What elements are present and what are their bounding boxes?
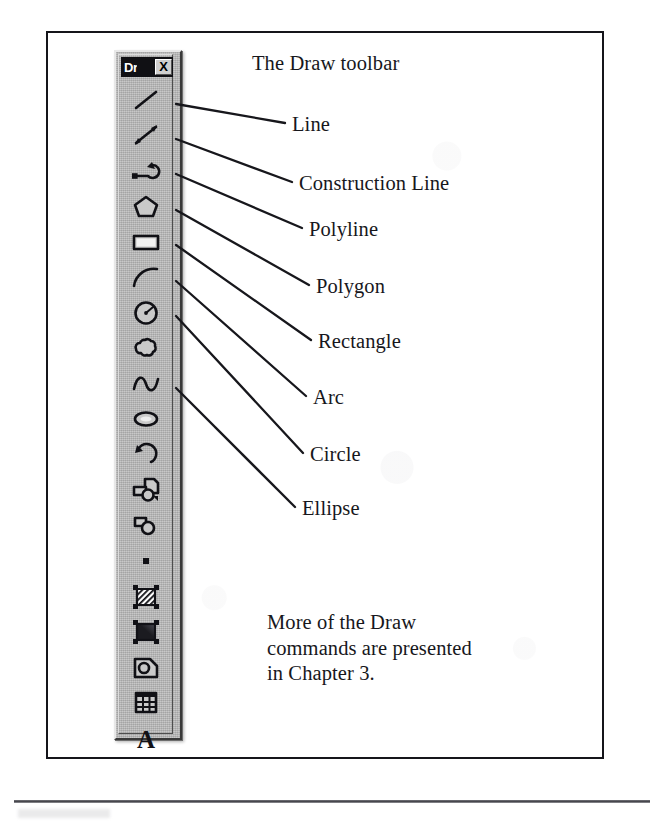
tool-button-point[interactable] bbox=[120, 544, 172, 580]
footer-smudge bbox=[18, 809, 110, 818]
callout-label-circle: Circle bbox=[310, 443, 361, 466]
draw-note-line-1: More of the Draw bbox=[267, 610, 517, 636]
draw-note-line-3: in Chapter 3. bbox=[267, 661, 517, 687]
hatch-icon bbox=[131, 583, 161, 611]
callout-label-arc: Arc bbox=[313, 386, 344, 409]
tool-button-make-block[interactable] bbox=[120, 508, 172, 544]
make-block-icon bbox=[131, 513, 161, 539]
tool-button-rectangle[interactable] bbox=[120, 224, 172, 260]
arc-icon bbox=[130, 264, 162, 290]
tool-button-construction-line[interactable] bbox=[120, 118, 172, 154]
ellipse-arc-icon bbox=[131, 442, 161, 468]
tool-button-revision-cloud[interactable] bbox=[120, 331, 172, 367]
tool-button-circle[interactable] bbox=[120, 295, 172, 331]
region-icon bbox=[131, 655, 161, 681]
callout-label-line: Line bbox=[292, 113, 330, 136]
construction-line-icon bbox=[131, 122, 161, 148]
svg-text:A: A bbox=[137, 726, 155, 752]
tool-button-polyline[interactable] bbox=[120, 153, 172, 189]
point-icon bbox=[137, 552, 155, 570]
toolbar-title: Dr bbox=[123, 61, 137, 74]
callout-label-ellipse: Ellipse bbox=[302, 497, 360, 520]
tool-button-arc[interactable] bbox=[120, 260, 172, 296]
polyline-icon bbox=[130, 158, 162, 184]
text-icon: A bbox=[133, 726, 159, 752]
figure-heading: The Draw toolbar bbox=[252, 52, 399, 75]
circle-icon bbox=[132, 299, 160, 327]
polygon-icon bbox=[131, 193, 161, 219]
tool-button-multiline-text[interactable]: A bbox=[120, 721, 172, 757]
tool-button-region[interactable] bbox=[120, 650, 172, 686]
draw-note-paragraph: More of the Draw commands are presented … bbox=[267, 610, 517, 687]
revision-cloud-icon bbox=[131, 334, 161, 362]
tool-button-ellipse-arc[interactable] bbox=[120, 437, 172, 473]
callout-label-polyline: Polyline bbox=[309, 218, 378, 241]
tool-button-ellipse[interactable] bbox=[120, 402, 172, 438]
tool-button-polygon[interactable] bbox=[120, 189, 172, 225]
spline-icon bbox=[130, 373, 162, 395]
line-icon bbox=[131, 87, 161, 113]
close-icon[interactable]: X bbox=[155, 59, 172, 75]
toolbar-button-column: A bbox=[120, 82, 172, 757]
gradient-icon bbox=[131, 618, 161, 646]
tool-button-table[interactable] bbox=[120, 686, 172, 722]
tool-button-spline[interactable] bbox=[120, 366, 172, 402]
rectangle-icon bbox=[130, 230, 162, 254]
callout-label-polygon: Polygon bbox=[316, 275, 385, 298]
tool-button-line[interactable] bbox=[120, 82, 172, 118]
tool-button-hatch[interactable] bbox=[120, 579, 172, 615]
tool-button-gradient[interactable] bbox=[120, 615, 172, 651]
table-icon bbox=[132, 690, 160, 716]
draw-note-line-2: commands are presented bbox=[267, 636, 517, 662]
callout-label-construction-line: Construction Line bbox=[299, 172, 449, 195]
tool-button-insert-block[interactable] bbox=[120, 473, 172, 509]
draw-toolbar-window[interactable]: Dr X bbox=[114, 50, 182, 740]
footer-rule bbox=[14, 800, 650, 803]
callout-label-rectangle: Rectangle bbox=[318, 330, 401, 353]
ellipse-icon bbox=[130, 408, 162, 430]
toolbar-titlebar[interactable]: Dr X bbox=[121, 57, 173, 77]
insert-block-icon bbox=[131, 476, 161, 504]
